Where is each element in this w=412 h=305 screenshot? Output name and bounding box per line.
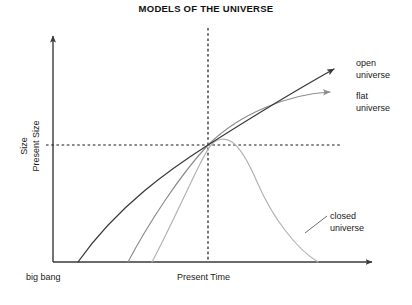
flat-universe-label-line1: flat [356, 91, 390, 103]
flat-universe-label-line2: universe [356, 103, 390, 115]
x-axis-label: Present Time [177, 272, 230, 282]
big-bang-label: big bang [26, 272, 61, 282]
open-universe-label: open universe [356, 58, 390, 81]
flat-universe-curve [128, 92, 330, 262]
y-axis-label-line2: Present Size [30, 120, 42, 171]
closed-universe-label-line1: closed [330, 211, 364, 223]
y-axis-label-line1: Size [18, 137, 30, 155]
chart-canvas: MODELS OF THE UNIVERSE [0, 0, 412, 305]
open-universe-label-line1: open [356, 58, 390, 70]
closed-universe-label-line2: universe [330, 223, 364, 235]
open-universe-curve [78, 69, 334, 262]
open-universe-label-line2: universe [356, 70, 390, 82]
closed-universe-label: closed universe [330, 211, 364, 234]
closed-universe-leader-line [305, 216, 327, 233]
universe-models-plot [0, 0, 412, 305]
y-axis-label: Size Present Size [12, 98, 48, 194]
flat-universe-label: flat universe [356, 91, 390, 114]
closed-universe-curve [152, 139, 318, 262]
